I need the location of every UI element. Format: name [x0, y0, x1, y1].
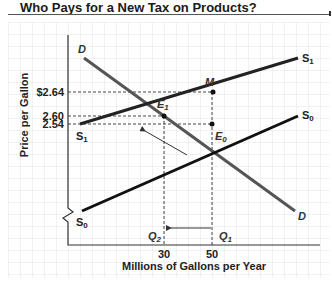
- demand-label-top: D: [78, 43, 86, 55]
- demand-label-bottom: D: [298, 210, 306, 222]
- y-axis-label: Price per Gallon: [18, 73, 30, 158]
- y-tick-2-64: $2.64: [36, 86, 64, 98]
- y-tick-2-54: 2.54: [43, 118, 65, 130]
- x-axis-label: Millions of Gallons per Year: [122, 260, 267, 272]
- point-e1: [162, 114, 167, 119]
- x-tick-30: 30: [158, 248, 170, 260]
- x-tick-50: 50: [206, 248, 218, 260]
- m-label: M: [205, 76, 215, 88]
- point-e0: [210, 122, 215, 127]
- supply-demand-chart: $2.64 2.60 2.54 30 50 Millions of Gallon…: [0, 0, 332, 286]
- point-m: [211, 90, 216, 95]
- grid-background: [8, 22, 330, 278]
